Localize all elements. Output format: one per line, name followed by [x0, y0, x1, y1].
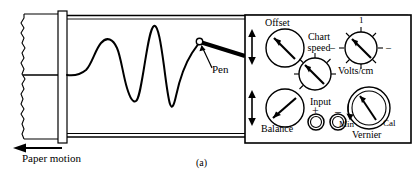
chart-recorder-figure: Offset Balance Chart speed Volts/cm 1 – …	[0, 0, 412, 175]
volts-per-cm-dial-left-value: –	[330, 43, 335, 53]
volts-per-cm-dial-top-value: 1	[359, 16, 364, 25]
offset-knob-label: Offset	[265, 18, 290, 28]
waveform-trace	[67, 26, 199, 107]
pen-tip-icon	[196, 38, 202, 44]
input-jack-positive-label: +	[312, 105, 319, 117]
vernier-min-label: Min	[339, 120, 354, 129]
platen-roller	[58, 11, 67, 143]
vernier-cal-label: Cal	[383, 119, 396, 128]
volts-per-cm-knob-label: Volts/cm	[338, 66, 373, 76]
pen-arm	[200, 42, 245, 56]
balance-knob-label: Balance	[261, 124, 293, 134]
figure-caption: (a)	[196, 158, 207, 168]
volts-per-cm-dial-right-value: –	[386, 43, 391, 53]
vernier-knob-label: Vernier	[352, 130, 381, 140]
offset-knob[interactable]	[266, 29, 304, 67]
pen-label: Pen	[212, 64, 229, 75]
recorder-drawing	[0, 0, 412, 175]
paper-motion-label: Paper motion	[22, 153, 81, 164]
torn-paper-edge	[21, 14, 25, 139]
balance-knob[interactable]	[266, 89, 304, 127]
input-jack-negative-label: –	[335, 105, 341, 117]
